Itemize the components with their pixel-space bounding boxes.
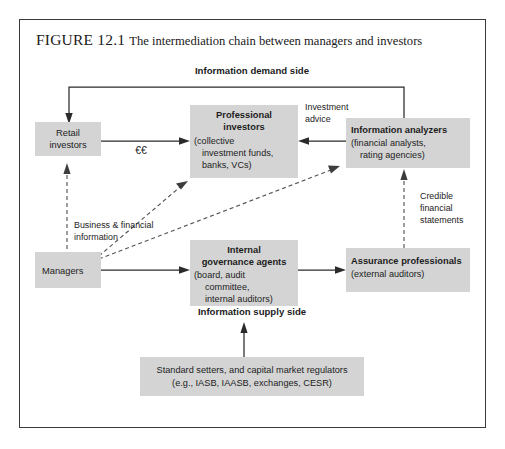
node-internal-governance-line3: (board, audit (194, 270, 246, 280)
edge-analyzers-to-professional (298, 137, 346, 144)
edge-managers-to-governance (101, 266, 190, 273)
edge-label-credible-line1: Credible (420, 191, 453, 201)
node-professional-investors-line1: Professional (216, 110, 272, 120)
edge-managers-to-professional (99, 181, 188, 256)
node-retail-investors[interactable]: Retail investors (35, 122, 101, 156)
intermediation-chain-diagram: Information demand side Information supp… (0, 0, 505, 449)
edge-label-credible-line2: financial (420, 203, 453, 213)
edge-label-credible-line3: statements (420, 215, 464, 225)
edge-label-business-info-line2: information (74, 232, 118, 242)
node-assurance-line2: (external auditors) (351, 269, 424, 279)
node-retail-investors-line1: Retail (56, 128, 80, 138)
node-professional-investors-line4: investment funds, (202, 148, 273, 158)
node-professional-investors[interactable]: Professional investors (collective inves… (190, 105, 298, 178)
node-retail-investors-line2: investors (49, 140, 87, 150)
node-internal-governance-line5: internal auditors) (205, 294, 273, 304)
edge-label-investment-advice-line2: advice (305, 114, 331, 124)
node-professional-investors-line2: investors (223, 122, 264, 132)
node-managers[interactable]: Managers (35, 252, 101, 288)
section-label-supply: Information supply side (198, 306, 306, 317)
edge-assurance-to-analyzers (400, 169, 407, 248)
node-internal-governance-line4: committee, (205, 282, 249, 292)
node-managers-line1: Managers (42, 266, 84, 276)
node-internal-governance-agents[interactable]: Internal governance agents (board, audit… (190, 240, 298, 306)
node-information-analyzers-line1: Information analyzers (351, 125, 447, 135)
edge-label-investment-advice-line1: Investment (305, 102, 349, 112)
node-professional-investors-line5: banks, VCs) (202, 160, 252, 170)
node-assurance-professionals[interactable]: Assurance professionals (external audito… (346, 248, 470, 292)
node-information-analyzers-line2: (financial analysts, (351, 138, 426, 148)
node-assurance-line1: Assurance professionals (351, 256, 462, 266)
node-regulators-line2: (e.g., IASB, IAASB, exchanges, CESR) (172, 378, 332, 388)
figure-page: FIGURE 12.1 The intermediation chain bet… (0, 0, 505, 449)
node-professional-investors-line3: (collective (194, 136, 234, 146)
section-label-demand: Information demand side (195, 65, 309, 76)
node-information-analyzers[interactable]: Information analyzers (financial analyst… (346, 118, 470, 168)
edge-regulators-to-governance (240, 322, 247, 357)
node-information-analyzers-line3: rating agencies) (360, 150, 425, 160)
node-regulators-line1: Standard setters, and capital market reg… (157, 365, 348, 375)
node-internal-governance-line2: governance agents (202, 257, 287, 267)
edge-label-euro: €€ (135, 144, 147, 156)
node-regulators[interactable]: Standard setters, and capital market reg… (140, 357, 364, 396)
node-internal-governance-line1: Internal (227, 245, 261, 255)
edge-governance-to-assurance (298, 266, 346, 273)
edge-label-business-info-line1: Business & financial (74, 220, 153, 230)
edge-managers-to-retail (63, 163, 70, 256)
